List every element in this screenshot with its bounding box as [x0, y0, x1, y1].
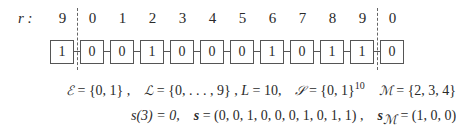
cell: 0	[380, 40, 404, 64]
L-symbol: ℒ	[144, 83, 153, 98]
cell: 0	[200, 40, 224, 64]
S-exponent: 10	[355, 80, 365, 91]
sM-subscript: ℳ	[383, 112, 397, 127]
index-label: 9	[50, 10, 75, 27]
equation-line-2: s(3) = 0, s = (0, 0, 1, 0, 0, 0, 1, 0, 1…	[131, 108, 456, 127]
cell: 1	[320, 40, 344, 64]
equation-line-1: ℰ = {0, 1} , ℒ = {0, . . . , 9} , L = 10…	[66, 80, 456, 99]
row-label: r :	[18, 10, 33, 27]
index-label: 0	[80, 10, 105, 27]
index-label: 3	[170, 10, 195, 27]
cell: 1	[260, 40, 284, 64]
index-label: 5	[230, 10, 255, 27]
L-value: = {0, . . . , 9} ,	[153, 83, 237, 98]
cell: 0	[230, 40, 254, 64]
s-vector-value: = (0, 0, 1, 0, 0, 0, 1, 0, 1, 1) ,	[199, 108, 363, 123]
S-value: = {0, 1}	[305, 83, 354, 98]
cell: 0	[80, 40, 104, 64]
index-label: 7	[290, 10, 315, 27]
s3-expression: s(3) = 0,	[131, 108, 180, 123]
cell: 1	[50, 40, 74, 64]
index-label: 6	[260, 10, 285, 27]
sM-value: = (1, 0, 0)	[397, 108, 456, 123]
M-symbol: ℳ	[379, 83, 393, 98]
periodic-boundary-left	[77, 8, 78, 70]
index-label: 1	[110, 10, 135, 27]
index-label: 9	[350, 10, 375, 27]
cell: 0	[110, 40, 134, 64]
M-value: = {2, 3, 4}	[393, 83, 456, 98]
index-label: 8	[320, 10, 345, 27]
cell: 0	[170, 40, 194, 64]
index-label: 2	[140, 10, 165, 27]
index-label: 4	[200, 10, 225, 27]
E-symbol: ℰ	[66, 83, 74, 98]
Lnum-symbol: L	[241, 83, 249, 98]
index-label: 0	[380, 10, 405, 27]
cell: 1	[140, 40, 164, 64]
cell: 1	[350, 40, 374, 64]
S-symbol: 𝒮	[295, 83, 305, 98]
E-value: = {0, 1} ,	[74, 83, 130, 98]
periodic-boundary-right	[377, 8, 378, 70]
cell: 0	[290, 40, 314, 64]
Lnum-value: = 10,	[249, 83, 281, 98]
